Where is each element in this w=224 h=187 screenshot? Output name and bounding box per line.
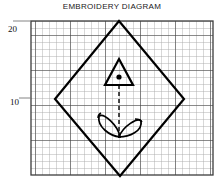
grid-area bbox=[31, 21, 213, 175]
axis-ticks bbox=[13, 21, 31, 98]
grid-major-lines bbox=[31, 21, 213, 175]
flower-center-dot bbox=[116, 74, 121, 79]
embroidery-diagram bbox=[0, 0, 224, 187]
